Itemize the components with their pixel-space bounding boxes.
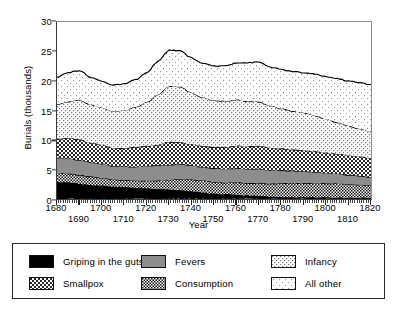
y-axis-tick-mark xyxy=(52,140,56,141)
y-axis-tick-mark xyxy=(52,170,56,171)
legend-label: Griping in the guts xyxy=(63,256,144,267)
y-axis-tick-label: 25 xyxy=(41,45,52,56)
x-axis-tick-label: 1740 xyxy=(180,203,201,213)
legend-label: Fevers xyxy=(175,256,205,267)
legend-label: All other xyxy=(305,278,342,289)
legend-swatch-medium-check-icon xyxy=(29,277,54,290)
legend: Griping in the gutsSmallpoxFeversConsump… xyxy=(12,243,385,299)
y-axis-tick-mark xyxy=(52,50,56,51)
legend-swatch-dense-check-icon xyxy=(141,277,166,290)
legend-item[interactable]: All other xyxy=(271,274,342,292)
x-axis-tick-label: 1700 xyxy=(90,203,111,213)
y-axis-tick-label: 10 xyxy=(41,135,52,146)
legend-swatch-sparse-dots-icon xyxy=(271,277,296,290)
legend-label: Smallpox xyxy=(63,278,104,289)
plot-area xyxy=(56,21,372,200)
legend-label: Consumption xyxy=(175,278,233,289)
x-axis-tick-label: 1800 xyxy=(315,203,336,213)
legend-item[interactable]: Smallpox xyxy=(29,274,104,292)
legend-swatch-solid-black-icon xyxy=(29,255,54,268)
legend-item[interactable]: Fevers xyxy=(141,252,205,270)
legend-swatch-light-check-icon xyxy=(271,255,296,268)
legend-swatch-solid-gray-icon xyxy=(141,255,166,268)
legend-item[interactable]: Infancy xyxy=(271,252,337,270)
chart-figure: Burials (thousands) 051015202530 xyxy=(0,0,397,310)
y-axis-tick-label: 20 xyxy=(41,75,52,86)
y-axis-tick-mark xyxy=(52,80,56,81)
stacked-area-series xyxy=(57,22,371,199)
x-axis-tick-label: 1760 xyxy=(225,203,246,213)
legend-item[interactable]: Griping in the guts xyxy=(29,252,144,270)
x-axis-tick-label: 1820 xyxy=(359,203,380,213)
y-axis-tick-mark xyxy=(52,110,56,111)
legend-label: Infancy xyxy=(305,256,337,267)
y-axis-tick-mark xyxy=(52,199,56,200)
x-axis-tick-label: 1680 xyxy=(45,203,66,213)
y-axis-tick-labels: 051015202530 xyxy=(16,21,52,200)
legend-item[interactable]: Consumption xyxy=(141,274,233,292)
x-axis-title: Year xyxy=(0,219,397,230)
y-axis-tick-mark xyxy=(52,20,56,21)
plot-region: Burials (thousands) 051015202530 xyxy=(0,0,397,232)
x-axis-tick-label: 1780 xyxy=(270,203,291,213)
y-axis-tick-label: 30 xyxy=(41,16,52,27)
x-axis-tick-label: 1720 xyxy=(135,203,156,213)
y-axis-tick-label: 15 xyxy=(41,105,52,116)
